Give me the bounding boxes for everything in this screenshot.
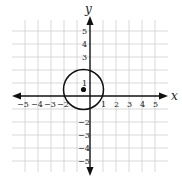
y-axis-arrow-down-icon	[87, 167, 94, 176]
y-tick-label: −2	[78, 118, 90, 127]
x-tick-label: −5	[17, 100, 29, 109]
coordinate-plane: x y −5 −4 −3 −2 1 2 3 4 5 5 4 3 1 −2 −3 …	[0, 0, 182, 180]
x-tick-label: 3	[127, 100, 132, 109]
x-tick-labels: −5 −4 −3 −2 1 2 3 4 5	[17, 100, 158, 109]
y-tick-label: 4	[82, 40, 87, 49]
x-axis-label: x	[171, 89, 178, 103]
x-axis-arrow-left-icon	[12, 93, 21, 100]
x-tick-label: 4	[140, 100, 145, 109]
x-tick-label: −3	[44, 100, 56, 109]
y-tick-label: −5	[78, 157, 90, 166]
y-tick-label: 1	[82, 79, 87, 88]
x-tick-label: 1	[101, 100, 106, 109]
x-axis-arrow-right-icon	[159, 93, 168, 100]
x-tick-label: 2	[114, 100, 119, 109]
center-point	[81, 87, 86, 92]
y-tick-label: 5	[82, 27, 87, 36]
y-tick-label: −3	[78, 131, 90, 140]
x-tick-label: −4	[31, 100, 43, 109]
y-tick-label: 3	[82, 53, 87, 62]
y-tick-label: −4	[78, 144, 90, 153]
y-axis-label: y	[84, 2, 92, 16]
y-axis-arrow-up-icon	[87, 16, 94, 25]
x-tick-label: 5	[153, 100, 158, 109]
